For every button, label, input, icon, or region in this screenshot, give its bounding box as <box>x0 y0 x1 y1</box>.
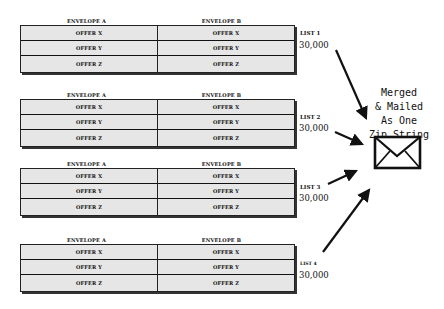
arrow-list-4 <box>323 190 369 252</box>
arrow-list-1 <box>336 50 366 118</box>
arrow-list-2 <box>335 132 362 144</box>
arrows-overlay <box>0 0 444 309</box>
arrow-list-3 <box>328 171 356 184</box>
envelope-icon <box>375 137 420 168</box>
